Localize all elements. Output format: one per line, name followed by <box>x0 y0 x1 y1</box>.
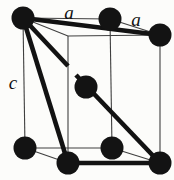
atom-body-center <box>75 76 98 99</box>
unit-cell-svg: a a c <box>0 0 174 180</box>
right-back-vertical-edge <box>110 19 112 148</box>
atom-bottom-front-left <box>57 152 80 175</box>
label-lattice-a-side: a <box>131 9 141 30</box>
atom-top-back-right <box>99 8 122 31</box>
left-back-vertical-edge <box>23 18 25 148</box>
atom-top-back-left <box>12 7 35 30</box>
crystal-structure-figure: a a c <box>0 0 174 180</box>
atom-top-front-right <box>149 24 172 47</box>
label-lattice-a-top: a <box>64 2 74 23</box>
atom-bottom-front-right <box>149 152 172 175</box>
atom-bottom-back-left <box>14 137 37 160</box>
atom-bottom-back-right <box>101 137 124 160</box>
label-lattice-c: c <box>9 72 18 93</box>
